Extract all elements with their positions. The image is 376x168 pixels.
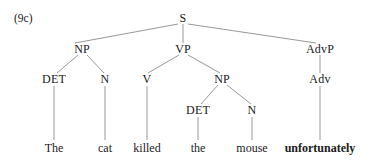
tree-node-n2: N (248, 104, 257, 116)
tree-edge (188, 24, 316, 43)
tree-node-n1: N (101, 73, 110, 85)
tree-edge (227, 85, 251, 104)
tree-edge (75, 24, 178, 43)
tree-terminal-w1: The (45, 142, 64, 154)
tree-terminal-w6: unfortunately (285, 142, 356, 154)
tree-edge (201, 85, 218, 104)
tree-edge (148, 55, 179, 73)
tree-node-adv: Adv (309, 73, 330, 85)
tree-node-advp: AdvP (306, 43, 334, 55)
tree-terminal-w5: mouse (236, 142, 267, 154)
tree-node-vp: VP (175, 43, 191, 55)
tree-node-det2: DET (186, 104, 210, 116)
tree-node-det1: DET (42, 73, 66, 85)
tree-terminal-w4: the (191, 142, 206, 154)
tree-node-s: S (180, 12, 187, 24)
tree-node-np2: NP (214, 73, 230, 85)
tree-node-np1: NP (74, 43, 90, 55)
tree-edge (87, 55, 104, 73)
tree-edge (57, 55, 78, 73)
tree-terminal-w3: killed (133, 142, 160, 154)
syntax-tree-figure: (9c) SNPVPAdvPDETNVNPAdvDETN Thecatkille… (0, 0, 376, 168)
tree-edge (188, 55, 220, 73)
tree-node-v: V (143, 73, 152, 85)
tree-terminal-w2: cat (98, 142, 112, 154)
